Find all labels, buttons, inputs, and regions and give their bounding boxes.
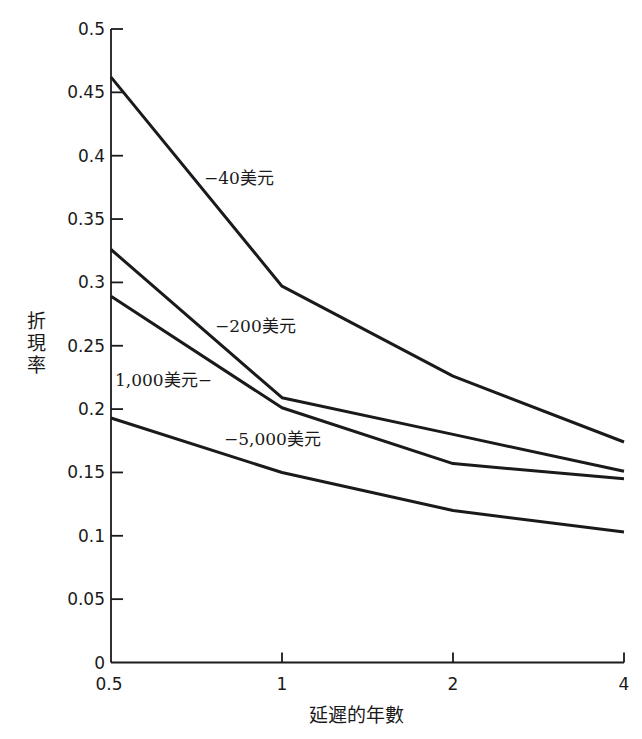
axes: 00.050.10.150.20.250.30.350.40.450.50.51… [67,19,629,694]
x-tick-label: 1 [277,674,288,694]
y-axis-title: 折 現 率 [27,310,46,376]
y-tick-label: 0.25 [67,336,105,356]
x-axis-title: 延遲的年數 [309,704,404,726]
y-tick-label: 0 [94,653,105,673]
y-tick-label: 0.3 [78,272,105,292]
x-tick-label: 4 [619,674,630,694]
series-group [111,77,624,532]
y-tick-label: 0.05 [67,589,105,609]
y-tick-label: 0.45 [67,82,105,102]
series-line-1 [111,250,624,472]
y-axis-title-char-3: 率 [27,354,46,376]
x-tick-label: 0.5 [95,674,122,694]
series-label-0: −40美元 [204,168,274,188]
series-label-3: −5,000美元 [224,429,321,449]
y-tick-label: 0.35 [67,209,105,229]
discount-rate-chart: 00.050.10.150.20.250.30.350.40.450.50.51… [0,0,642,739]
series-label-1: −200美元 [215,316,296,336]
x-tick-label: 2 [448,674,459,694]
y-tick-label: 0.1 [78,526,105,546]
y-tick-label: 0.5 [78,19,105,39]
y-tick-label: 0.15 [67,462,105,482]
y-axis-title-char-1: 折 [27,310,46,332]
y-tick-label: 0.2 [78,399,105,419]
y-axis-title-char-2: 現 [27,332,46,354]
series-label-2: 1,000美元− [115,370,212,390]
y-tick-label: 0.4 [78,146,105,166]
